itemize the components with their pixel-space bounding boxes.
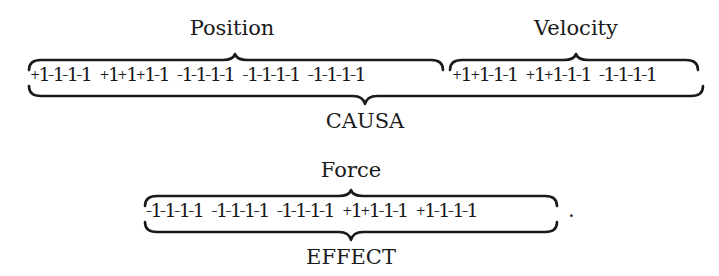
- spin-value: –1: [271, 65, 285, 84]
- spin-value: +1: [416, 201, 434, 220]
- spin-value: +1: [526, 65, 544, 84]
- spin-value: –1: [188, 201, 202, 220]
- spin-value: +1: [118, 65, 136, 84]
- spin-value: +1: [452, 65, 470, 84]
- spin-value: –1: [599, 65, 613, 84]
- position-label: Position: [190, 16, 275, 40]
- spin-value: –1: [174, 201, 188, 220]
- position-group: +1–1–1–1: [30, 65, 90, 84]
- spin-value: –1: [641, 65, 655, 84]
- trailing-period: .: [568, 198, 575, 222]
- velocity-label: Velocity: [534, 16, 618, 40]
- spin-value: –1: [48, 65, 62, 84]
- causa-label: CAUSA: [326, 109, 404, 133]
- spin-value: –1: [305, 201, 319, 220]
- spin-value: –1: [62, 65, 76, 84]
- force-group: –1–1–1–1: [277, 201, 333, 220]
- spin-value: –1: [285, 65, 299, 84]
- spin-value: –1: [613, 65, 627, 84]
- spin-value: –1: [219, 65, 233, 84]
- spin-value: +1: [30, 65, 48, 84]
- spin-value: –1: [434, 201, 448, 220]
- spin-value: –1: [393, 201, 407, 220]
- velocity-group: +1+1–1–1: [526, 65, 591, 84]
- spin-value: –1: [76, 65, 90, 84]
- spin-value: –1: [502, 65, 516, 84]
- spin-value: –1: [350, 65, 364, 84]
- spin-value: –1: [576, 65, 590, 84]
- spin-value: –1: [146, 201, 160, 220]
- position-group: –1–1–1–1: [242, 65, 298, 84]
- spin-value: –1: [277, 201, 291, 220]
- spin-value: –1: [242, 65, 256, 84]
- spin-value: –1: [562, 65, 576, 84]
- force-group: –1–1–1–1: [146, 201, 202, 220]
- spin-value: –1: [191, 65, 205, 84]
- spin-value: –1: [160, 201, 174, 220]
- force-label: Force: [321, 158, 381, 182]
- force-group: +1–1–1–1: [416, 201, 476, 220]
- spin-value: –1: [211, 201, 225, 220]
- causa-underbrace: [27, 84, 707, 106]
- spin-value: –1: [177, 65, 191, 84]
- spin-value: +1: [99, 65, 117, 84]
- position-group: –1–1–1–1: [308, 65, 364, 84]
- spin-value: –1: [378, 201, 392, 220]
- spin-value: –1: [462, 201, 476, 220]
- velocity-group: –1–1–1–1: [599, 65, 655, 84]
- force-group: –1–1–1–1: [211, 201, 267, 220]
- spin-value: –1: [336, 65, 350, 84]
- spin-value: –1: [254, 201, 268, 220]
- spin-value: –1: [319, 201, 333, 220]
- effect-underbrace: [143, 220, 563, 242]
- spin-value: +1: [136, 65, 154, 84]
- spin-value: –1: [627, 65, 641, 84]
- spin-value: –1: [291, 201, 305, 220]
- spin-value: –1: [154, 65, 168, 84]
- spin-value: +1: [544, 65, 562, 84]
- spin-value: +1: [342, 201, 360, 220]
- velocity-group: +1+1–1–1: [452, 65, 517, 84]
- spin-value: +1: [360, 201, 378, 220]
- spin-value: +1: [470, 65, 488, 84]
- effect-label: EFFECT: [306, 245, 396, 269]
- position-group: –1–1–1–1: [177, 65, 233, 84]
- spin-value: –1: [488, 65, 502, 84]
- spin-value: –1: [256, 65, 270, 84]
- spin-value: –1: [322, 65, 336, 84]
- position-group: +1+1+1–1: [99, 65, 168, 84]
- force-group: +1+1–1–1: [342, 201, 407, 220]
- spin-value: –1: [448, 201, 462, 220]
- spin-value: –1: [225, 201, 239, 220]
- spin-value: –1: [240, 201, 254, 220]
- spin-value: –1: [308, 65, 322, 84]
- spin-value: –1: [205, 65, 219, 84]
